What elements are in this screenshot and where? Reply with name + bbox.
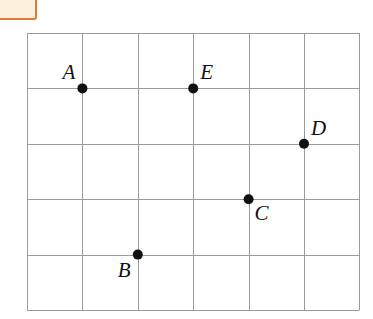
point-b — [133, 250, 143, 260]
point-e — [188, 83, 198, 93]
point-label-c: C — [255, 201, 270, 225]
grid-diagram: AEDCB — [0, 0, 373, 319]
point-a — [77, 83, 87, 93]
point-label-e: E — [199, 60, 213, 84]
point-d — [299, 139, 309, 149]
point-c — [244, 194, 254, 204]
point-label-b: B — [118, 258, 131, 282]
point-label-a: A — [60, 60, 75, 84]
grid-lines — [27, 33, 360, 311]
point-label-d: D — [310, 116, 326, 140]
